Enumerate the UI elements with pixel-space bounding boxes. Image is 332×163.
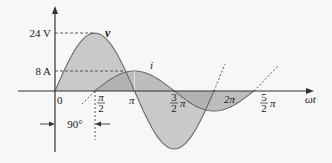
x-tick-2pi: 2π	[224, 93, 236, 105]
x-tick-pi-over-2: π 2	[97, 91, 105, 114]
svg-text:2: 2	[98, 102, 104, 114]
svg-text:2: 2	[261, 102, 267, 114]
arrow-right-icon	[49, 122, 55, 127]
y-label-8a: 8 A	[35, 65, 51, 77]
svg-text:π: π	[270, 97, 276, 109]
y-axis-arrow-icon	[52, 6, 58, 14]
x-tick-5pi-over-2: 5 2 π	[260, 91, 276, 114]
v-curve-label: v	[105, 26, 111, 40]
y-label-24v: 24 V	[30, 27, 52, 39]
waveform-diagram: 24 V 8 A v i 0 π 2 π 3 2 π 2π 5 2 π ωt 9…	[0, 0, 332, 163]
v-extension-end	[214, 64, 225, 91]
x-tick-pi: π	[129, 94, 135, 106]
phase-annotation: 90°	[40, 118, 110, 130]
i-extension-end	[254, 66, 278, 91]
arrow-left-icon	[95, 122, 101, 127]
svg-text:π: π	[180, 97, 186, 109]
svg-text:2: 2	[171, 102, 177, 114]
i-extension-start	[82, 91, 95, 104]
i-curve-label: i	[150, 59, 153, 71]
svg-text:90°: 90°	[67, 118, 82, 130]
x-axis-label: ωt	[305, 93, 317, 105]
x-tick-0: 0	[57, 94, 63, 106]
